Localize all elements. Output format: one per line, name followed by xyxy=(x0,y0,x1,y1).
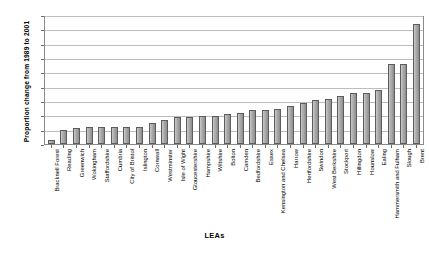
bar-slot xyxy=(158,17,171,144)
y-tick-mark xyxy=(41,45,44,46)
bar-slot xyxy=(385,17,398,144)
x-label-slot: Hounslow xyxy=(360,149,373,225)
bar-slot xyxy=(259,17,272,144)
x-tick-mark xyxy=(366,145,367,148)
x-label-slot: Ealing xyxy=(372,149,385,225)
x-tick-mark xyxy=(76,145,77,148)
bar xyxy=(287,106,294,144)
bar xyxy=(86,127,93,144)
x-tick-mark xyxy=(340,145,341,148)
bar-slot xyxy=(284,17,297,144)
y-tick-mark xyxy=(41,116,44,117)
x-label-slot: Hillingdon xyxy=(347,149,360,225)
x-tick-mark xyxy=(303,145,304,148)
x-tick-mark xyxy=(290,145,291,148)
bar-slot xyxy=(45,17,58,144)
bar xyxy=(161,120,168,144)
x-tick-mark xyxy=(403,145,404,148)
x-label-slot: Isle of Wight xyxy=(171,149,184,225)
bar xyxy=(60,130,67,144)
y-tick-mark xyxy=(41,30,44,31)
x-tick-mark xyxy=(126,145,127,148)
x-tick-mark xyxy=(202,145,203,148)
y-tick-mark xyxy=(41,88,44,89)
x-tick-mark xyxy=(391,145,392,148)
bar-slot xyxy=(234,17,247,144)
x-tick-mark xyxy=(139,145,140,148)
bar xyxy=(375,90,382,144)
x-tick-mark xyxy=(328,145,329,148)
bar-slot xyxy=(70,17,83,144)
x-label-slot: Kensington and Chelsea xyxy=(272,149,285,225)
x-label-slot: Camden xyxy=(234,149,247,225)
x-label-slot: Stockport xyxy=(335,149,348,225)
bar-slot xyxy=(83,17,96,144)
bar xyxy=(337,96,344,144)
x-axis-labels: Bracknell ForestReadingGreenwichWokingha… xyxy=(45,149,423,225)
x-label-slot: Wiltshire xyxy=(209,149,222,225)
x-tick-mark xyxy=(114,145,115,148)
x-label-slot: Slough xyxy=(398,149,411,225)
y-tick-mark xyxy=(41,73,44,74)
x-label-slot: Bedfordshire xyxy=(247,149,260,225)
x-tick-mark xyxy=(227,145,228,148)
bar-slot xyxy=(221,17,234,144)
bar xyxy=(149,123,156,144)
bar xyxy=(199,116,206,144)
bar xyxy=(350,93,357,144)
bar xyxy=(400,64,407,144)
bar xyxy=(300,103,307,144)
bar-slot xyxy=(133,17,146,144)
bar-slot xyxy=(322,17,335,144)
x-label-slot: Hertfordshire xyxy=(297,149,310,225)
x-label-slot: Greenwich xyxy=(70,149,83,225)
bar xyxy=(136,127,143,144)
x-label-slot: Islington xyxy=(133,149,146,225)
x-label-slot: Staffordshire xyxy=(95,149,108,225)
bar xyxy=(237,113,244,144)
x-label-slot: Harrow xyxy=(284,149,297,225)
bar-slot xyxy=(209,17,222,144)
bar-slot xyxy=(309,17,322,144)
x-tick-mark xyxy=(164,145,165,148)
x-label-slot: Bracknell Forest xyxy=(45,149,58,225)
bar-slot xyxy=(410,17,423,144)
bar xyxy=(388,64,395,144)
y-tick-mark xyxy=(41,145,44,146)
x-tick-mark xyxy=(240,145,241,148)
bar xyxy=(212,116,219,144)
x-tick-mark xyxy=(315,145,316,148)
x-label-slot: Gloucestershire xyxy=(184,149,197,225)
bar xyxy=(186,117,193,144)
bar-slot xyxy=(297,17,310,144)
x-label-slot: Hampshire xyxy=(196,149,209,225)
bar xyxy=(174,117,181,144)
x-label-slot: Brent xyxy=(410,149,423,225)
y-tick-mark xyxy=(41,131,44,132)
x-axis-title: LEAs xyxy=(0,231,429,240)
x-tick-label: Brent xyxy=(419,149,425,163)
y-tick-mark xyxy=(41,59,44,60)
x-tick-mark xyxy=(63,145,64,148)
x-tick-mark xyxy=(416,145,417,148)
bar xyxy=(312,100,319,144)
bar xyxy=(98,127,105,144)
bar xyxy=(224,114,231,144)
x-label-slot: West Berkshire xyxy=(322,149,335,225)
x-label-slot: City of Bristol xyxy=(121,149,134,225)
bar-slot xyxy=(247,17,260,144)
bar-slot xyxy=(95,17,108,144)
bar-slot xyxy=(58,17,71,144)
bar-slot xyxy=(347,17,360,144)
bar-slot xyxy=(184,17,197,144)
bar-slot xyxy=(398,17,411,144)
x-tick-mark xyxy=(51,145,52,148)
bar-slot xyxy=(272,17,285,144)
x-tick-mark xyxy=(378,145,379,148)
bar-chart: Proportion change from 1989 to 2001 9080… xyxy=(0,0,429,258)
bar xyxy=(363,93,370,144)
bar-slot xyxy=(372,17,385,144)
bar-slot xyxy=(146,17,159,144)
x-label-slot: Swindon xyxy=(309,149,322,225)
x-tick-mark xyxy=(101,145,102,148)
